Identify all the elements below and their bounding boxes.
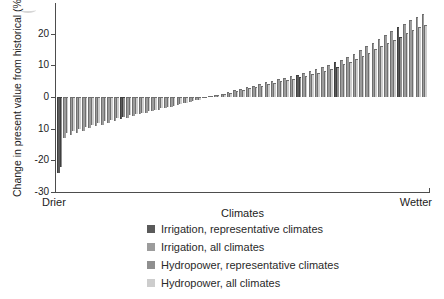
- hydropower-bar: [72, 97, 75, 131]
- y-tick-label: 20: [22, 29, 49, 39]
- climate-bar-group: [258, 0, 264, 193]
- climate-bar-group: [403, 0, 409, 193]
- climate-investment-bar-chart: Change in present value from historical …: [0, 0, 444, 299]
- climate-bar-group: [107, 0, 113, 193]
- hydropower-bar: [412, 30, 415, 97]
- hydropower-bar: [204, 97, 207, 98]
- legend-item-hydropower-all: Hydropower, all climates: [147, 274, 339, 292]
- hydropower-bar: [91, 97, 94, 125]
- hydropower-representative-bar: [122, 97, 125, 117]
- climate-bar-group: [372, 0, 378, 193]
- climate-bar-group: [95, 0, 101, 193]
- legend-label: Irrigation, representative climates: [161, 223, 323, 235]
- climate-bar-group: [359, 0, 365, 193]
- hydropower-bar: [185, 97, 188, 103]
- climate-bar-group: [70, 0, 76, 193]
- climate-bar-group: [365, 0, 371, 193]
- hydropower-bar: [362, 56, 365, 97]
- hydropower-bar: [198, 97, 201, 100]
- climate-bar-group: [145, 0, 151, 193]
- y-tick-label: 10: [22, 60, 49, 70]
- hydropower-bar: [292, 79, 295, 97]
- legend-swatch-icon: [147, 243, 155, 251]
- hydropower-bar: [192, 97, 195, 101]
- climate-bar-group: [126, 0, 132, 193]
- hydropower-representative-bar: [60, 97, 63, 167]
- hydropower-bar: [311, 74, 314, 97]
- climate-bar-group: [208, 0, 214, 193]
- legend: Irrigation, representative climates Irri…: [147, 220, 339, 292]
- climate-bar-group: [170, 0, 176, 193]
- hydropower-bar: [255, 87, 258, 97]
- climate-bar-group: [397, 0, 403, 193]
- hydropower-bar: [286, 80, 289, 97]
- hydropower-bar: [273, 83, 276, 97]
- climate-bar-group: [76, 0, 82, 193]
- legend-label: Hydropower, representative climates: [161, 259, 339, 271]
- legend-item-irrigation-all: Irrigation, all climates: [147, 238, 339, 256]
- climate-bar-group: [296, 0, 302, 193]
- hydropower-bar: [406, 33, 409, 97]
- legend-item-hydropower-representative: Hydropower, representative climates: [147, 256, 339, 274]
- hydropower-bar: [380, 46, 383, 97]
- climate-bar-group: [214, 0, 220, 193]
- climate-bar-group: [183, 0, 189, 193]
- climate-bar-group: [177, 0, 183, 193]
- hydropower-bar: [280, 81, 283, 97]
- hydropower-bar: [368, 53, 371, 97]
- plot-area: [55, 0, 431, 193]
- hydropower-bar: [129, 97, 132, 115]
- climate-bar-group: [416, 0, 422, 193]
- climate-bar-group: [334, 0, 340, 193]
- climate-bar-group: [283, 0, 289, 193]
- legend-swatch-icon: [147, 261, 155, 269]
- hydropower-bar: [110, 97, 113, 120]
- legend-label: Hydropower, all climates: [161, 277, 280, 289]
- hydropower-bar: [267, 84, 270, 97]
- y-tick-label: 0: [22, 92, 49, 102]
- hydropower-bar: [211, 96, 214, 97]
- hydropower-bar: [135, 97, 138, 114]
- climate-bar-group: [189, 0, 195, 193]
- climate-bar-group: [290, 0, 296, 193]
- climate-bar-group: [227, 0, 233, 193]
- hydropower-bar: [418, 27, 421, 97]
- climate-bar-group: [151, 0, 157, 193]
- hydropower-bar: [374, 49, 377, 97]
- climate-bar-group: [346, 0, 352, 193]
- climate-bar-group: [88, 0, 94, 193]
- x-axis-title: Climates: [55, 207, 430, 219]
- hydropower-bar: [261, 86, 264, 97]
- hydropower-representative-bar: [299, 77, 302, 97]
- legend-swatch-icon: [147, 225, 155, 233]
- hydropower-bar: [179, 97, 182, 104]
- climate-bar-group: [384, 0, 390, 193]
- climate-bar-group: [139, 0, 145, 193]
- legend-item-irrigation-representative: Irrigation, representative climates: [147, 220, 339, 238]
- hydropower-bar: [148, 97, 151, 111]
- climate-bar-group: [132, 0, 138, 193]
- climate-bar-group: [353, 0, 359, 193]
- climate-bar-group: [271, 0, 277, 193]
- climate-bar-group: [82, 0, 88, 193]
- climate-bar-group: [340, 0, 346, 193]
- climate-bar-group: [202, 0, 208, 193]
- hydropower-bar: [317, 73, 320, 97]
- y-tick-label: 10: [22, 124, 49, 134]
- hydropower-bar: [330, 69, 333, 97]
- climate-bar-group: [265, 0, 271, 193]
- hydropower-bar: [393, 40, 396, 97]
- hydropower-bar: [349, 62, 352, 97]
- hydropower-bar: [324, 71, 327, 97]
- hydropower-bar: [160, 97, 163, 108]
- climate-bar-group: [327, 0, 333, 193]
- hydropower-bar: [236, 91, 239, 97]
- climate-bar-group: [378, 0, 384, 193]
- climate-bar-group: [277, 0, 283, 193]
- climate-bar-group: [63, 0, 69, 193]
- climate-bar-group: [422, 0, 428, 193]
- hydropower-bar: [78, 97, 81, 129]
- hydropower-bar: [355, 59, 358, 97]
- hydropower-bar: [229, 93, 232, 97]
- hydropower-bar: [85, 97, 88, 127]
